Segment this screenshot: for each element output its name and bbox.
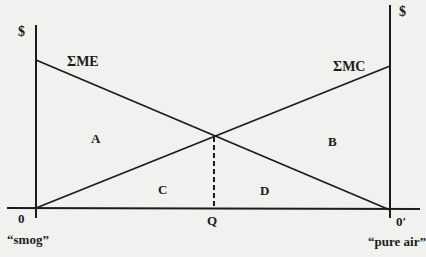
origin-left-label: 0 <box>18 211 25 226</box>
diagram: $ $ ΣME ΣMC A B C D 0 Q 0′ “smog” “pure … <box>0 0 426 257</box>
diagram-canvas: $ $ ΣME ΣMC A B C D 0 Q 0′ “smog” “pure … <box>0 0 426 257</box>
region-a-label: A <box>91 131 101 146</box>
sum-mc-label: ΣMC <box>333 59 365 74</box>
sum-me-label: ΣME <box>67 54 99 69</box>
right-axis-label: $ <box>399 4 406 19</box>
origin-right-label: 0′ <box>396 214 406 229</box>
smog-caption: “smog” <box>7 232 49 247</box>
left-axis-label: $ <box>18 24 25 39</box>
optimum-q-label: Q <box>207 213 217 228</box>
region-d-label: D <box>260 183 269 198</box>
horizontal-axis <box>7 208 420 209</box>
region-b-label: B <box>328 134 337 149</box>
region-c-label: C <box>158 182 167 197</box>
pure-air-caption: “pure air” <box>368 234 426 249</box>
